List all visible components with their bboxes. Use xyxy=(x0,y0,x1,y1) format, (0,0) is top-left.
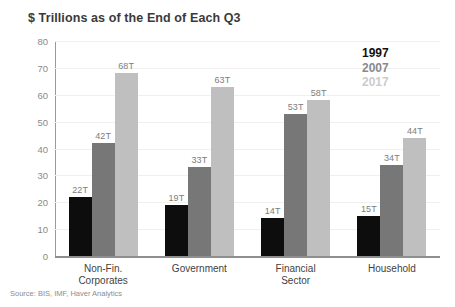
bar-slot: 22T xyxy=(69,41,92,256)
y-axis-tick-50: 50 xyxy=(4,116,48,127)
bar-value-label: 68T xyxy=(118,61,134,71)
bar-2007-3[interactable] xyxy=(380,165,403,256)
bar-group: 14T53T58T xyxy=(261,41,330,256)
legend: 199720072017 xyxy=(362,46,389,90)
bar-1997-0[interactable] xyxy=(69,197,92,256)
bar-1997-2[interactable] xyxy=(261,218,284,256)
bar-value-label: 22T xyxy=(72,185,88,195)
source-attribution: Source: BIS, IMF, Haver Analytics xyxy=(10,289,122,298)
chart-title: $ Trillions as of the End of Each Q3 xyxy=(28,11,241,25)
legend-item-2017[interactable]: 2017 xyxy=(362,75,389,90)
bar-slot: 58T xyxy=(307,41,330,256)
bar-slot: 44T xyxy=(403,41,426,256)
x-axis-category-label: Non-Fin. Corporates xyxy=(55,263,151,287)
bar-1997-1[interactable] xyxy=(165,205,188,256)
bar-slot: 68T xyxy=(115,41,138,256)
bar-1997-3[interactable] xyxy=(357,216,380,256)
bar-group-bars: 22T42T68T xyxy=(69,41,138,256)
bar-2017-0[interactable] xyxy=(115,73,138,256)
bar-value-label: 58T xyxy=(311,88,327,98)
bar-value-label: 42T xyxy=(95,131,111,141)
bar-2007-0[interactable] xyxy=(92,143,115,256)
bar-group-bars: 14T53T58T xyxy=(261,41,330,256)
y-axis-tick-20: 20 xyxy=(4,197,48,208)
y-axis-tick-10: 10 xyxy=(4,224,48,235)
bar-slot: 19T xyxy=(165,41,188,256)
x-axis-category-label: Government xyxy=(151,263,247,275)
bar-2017-2[interactable] xyxy=(307,100,330,256)
bar-value-label: 34T xyxy=(384,153,400,163)
bar-group: 22T42T68T xyxy=(69,41,138,256)
bar-value-label: 15T xyxy=(361,204,377,214)
bar-2017-3[interactable] xyxy=(403,138,426,256)
x-axis-category-label: Household xyxy=(344,263,440,275)
bar-value-label: 44T xyxy=(407,126,423,136)
bar-value-label: 63T xyxy=(215,75,231,85)
bar-slot: 42T xyxy=(92,41,115,256)
x-axis-line xyxy=(55,256,440,258)
legend-item-1997[interactable]: 1997 xyxy=(362,46,389,61)
bar-chart: $ Trillions as of the End of Each Q3 807… xyxy=(0,0,455,307)
y-axis-tick-0: 0 xyxy=(4,251,48,262)
y-axis-tick-60: 60 xyxy=(4,89,48,100)
bar-slot: 33T xyxy=(188,41,211,256)
bar-value-label: 53T xyxy=(288,102,304,112)
bar-slot: 14T xyxy=(261,41,284,256)
y-axis-tick-70: 70 xyxy=(4,62,48,73)
y-axis-tick-labels: 80706050403020100 xyxy=(0,41,48,256)
bar-2017-1[interactable] xyxy=(211,87,234,256)
bar-value-label: 19T xyxy=(169,193,185,203)
bar-group-bars: 19T33T63T xyxy=(165,41,234,256)
y-axis-tick-40: 40 xyxy=(4,143,48,154)
legend-item-2007[interactable]: 2007 xyxy=(362,61,389,76)
bar-value-label: 14T xyxy=(265,206,281,216)
y-axis-tick-80: 80 xyxy=(4,36,48,47)
bar-2007-2[interactable] xyxy=(284,114,307,256)
bar-2007-1[interactable] xyxy=(188,167,211,256)
bar-slot: 63T xyxy=(211,41,234,256)
bar-slot: 53T xyxy=(284,41,307,256)
bar-group: 19T33T63T xyxy=(165,41,234,256)
x-axis-category-label: Financial Sector xyxy=(248,263,344,287)
bar-value-label: 33T xyxy=(192,155,208,165)
y-axis-tick-30: 30 xyxy=(4,170,48,181)
